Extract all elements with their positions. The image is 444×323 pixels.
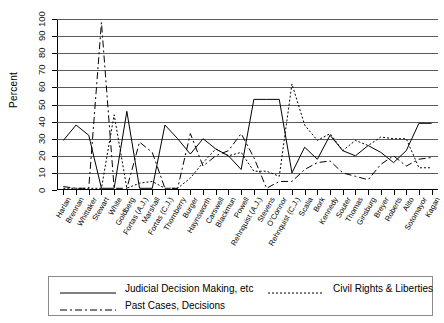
legend-item: Civil Rights & Liberties (267, 280, 433, 297)
x-tick (267, 190, 268, 195)
x-tick (419, 190, 420, 195)
chart-legend: Judicial Decision Making, etcCivil Right… (48, 276, 433, 316)
x-tick (241, 190, 242, 195)
x-axis-labels: HarlanBrennanWhittakerStewartWhiteGoldbe… (57, 196, 438, 266)
x-tick (216, 190, 217, 195)
series-line (63, 99, 431, 188)
legend-line-swatch (267, 284, 325, 294)
x-tick (165, 190, 166, 195)
x-tick (178, 190, 179, 195)
x-tick (343, 190, 344, 195)
x-tick (355, 190, 356, 195)
legend-row-2: Past Cases, Decisions (49, 297, 432, 314)
legend-row-1: Judicial Decision Making, etcCivil Right… (49, 280, 432, 297)
legend-item: Past Cases, Decisions (59, 297, 225, 314)
x-tick (317, 190, 318, 195)
x-tick (152, 190, 153, 195)
legend-label: Past Cases, Decisions (125, 300, 225, 311)
y-tick (52, 190, 57, 191)
x-tick (305, 190, 306, 195)
series-lines (57, 19, 438, 190)
x-tick (406, 190, 407, 195)
x-tick (254, 190, 255, 195)
x-tick (203, 190, 204, 195)
plot-area: 0102030405060708090100 (57, 19, 438, 190)
y-axis-title: Percent (8, 72, 22, 108)
x-tick (190, 190, 191, 195)
x-tick (63, 190, 64, 195)
legend-label: Judicial Decision Making, etc (125, 283, 253, 294)
x-tick (368, 190, 369, 195)
x-tick (330, 190, 331, 195)
x-tick (292, 190, 293, 195)
x-tick (381, 190, 382, 195)
chart-page: Percent 0102030405060708090100 HarlanBre… (0, 0, 444, 323)
x-tick (228, 190, 229, 195)
x-tick (127, 190, 128, 195)
legend-item: Judicial Decision Making, etc (59, 280, 253, 297)
legend-line-swatch (59, 284, 117, 294)
x-tick (76, 190, 77, 195)
x-tick (140, 190, 141, 195)
x-tick (89, 190, 90, 195)
x-tick (432, 190, 433, 195)
y-tick-label: 100 (35, 5, 49, 33)
x-tick (394, 190, 395, 195)
x-tick (279, 190, 280, 195)
legend-label: Civil Rights & Liberties (333, 283, 433, 294)
legend-line-swatch (59, 301, 117, 311)
x-tick (114, 190, 115, 195)
